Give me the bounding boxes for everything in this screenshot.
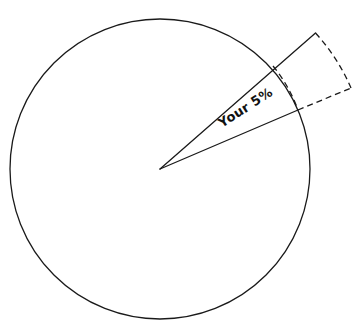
wedge-lower-radius-dashed-extension (298, 88, 351, 110)
pie-chart-figure: Your 5% (0, 0, 362, 330)
wedge-upper-radius-line (160, 33, 316, 169)
pie-chart-canvas: Your 5% (0, 0, 362, 330)
exploded-slice-outer-arc (316, 33, 352, 88)
